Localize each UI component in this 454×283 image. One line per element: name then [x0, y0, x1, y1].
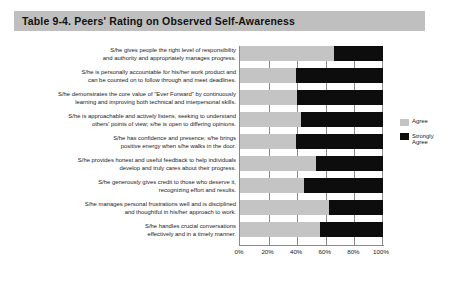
- category-label: S/he has confidence and presence; s/he b…: [18, 135, 236, 150]
- bar-row: [240, 156, 383, 171]
- bar-segment-strongly-agree: [304, 178, 383, 193]
- x-tick-label: 100%: [373, 248, 389, 255]
- category-label: S/he gives people the right level of res…: [18, 47, 236, 62]
- bar-segment-agree: [240, 178, 304, 193]
- bar-segment-agree: [240, 222, 320, 237]
- category-label: S/he provides honest and useful feedback…: [18, 157, 236, 172]
- legend-item-agree: Agree: [400, 118, 452, 126]
- bar-segment-strongly-agree: [320, 222, 383, 237]
- bar-segment-strongly-agree: [296, 68, 383, 83]
- bar-segment-agree: [240, 112, 301, 127]
- plot-area: [239, 46, 383, 245]
- category-label: S/he generously gives credit to those wh…: [18, 179, 236, 194]
- bar-segment-strongly-agree: [316, 156, 383, 171]
- chart-legend: Agree Strongly Agree: [400, 118, 452, 153]
- bar-segment-strongly-agree: [329, 200, 383, 215]
- bar-row: [240, 178, 383, 193]
- bar-row: [240, 222, 383, 237]
- category-label: S/he is approachable and actively listen…: [18, 113, 236, 128]
- bar-segment-strongly-agree: [301, 112, 383, 127]
- legend-swatch-agree-icon: [400, 119, 409, 126]
- x-tick-label: 80%: [347, 248, 359, 255]
- legend-swatch-strongly-agree-icon: [400, 133, 409, 140]
- x-tick-label: 40%: [290, 248, 302, 255]
- page-title: Table 9-4. Peers' Rating on Observed Sel…: [22, 15, 295, 27]
- x-axis-tick-labels: 0% 20% 40% 60% 80% 100%: [239, 248, 382, 260]
- bar-segment-agree: [240, 68, 296, 83]
- category-label: S/he handles crucial conversations effec…: [18, 223, 236, 238]
- category-labels: S/he gives people the right level of res…: [18, 46, 236, 245]
- bar-row: [240, 46, 383, 61]
- bar-segment-agree: [240, 200, 329, 215]
- legend-label: Strongly Agree: [412, 133, 434, 146]
- bar-segment-strongly-agree: [297, 90, 383, 105]
- bar-row: [240, 68, 383, 83]
- bar-segment-agree: [240, 46, 334, 61]
- x-axis-line: [239, 245, 384, 246]
- bar-row: [240, 90, 383, 105]
- category-label: S/he manages personal frustrations well …: [18, 201, 236, 216]
- bar-row: [240, 200, 383, 215]
- category-label: S/he demonstrates the core value of "Eve…: [18, 91, 236, 106]
- table-title-banner: Table 9-4. Peers' Rating on Observed Sel…: [14, 11, 425, 31]
- legend-label: Agree: [412, 118, 428, 125]
- bar-segment-strongly-agree: [334, 46, 383, 61]
- bar-segment-agree: [240, 134, 296, 149]
- x-tick-label: 60%: [319, 248, 331, 255]
- bar-row: [240, 112, 383, 127]
- bar-segment-agree: [240, 156, 316, 171]
- chart-page: Table 9-4. Peers' Rating on Observed Sel…: [0, 0, 454, 283]
- x-tick-label: 20%: [261, 248, 273, 255]
- category-label: S/he is personally accountable for his/h…: [18, 69, 236, 84]
- bar-segment-strongly-agree: [296, 134, 383, 149]
- x-tick-label: 0%: [235, 248, 244, 255]
- bar-segment-agree: [240, 90, 297, 105]
- legend-item-strongly-agree: Strongly Agree: [400, 133, 452, 146]
- chart-container: S/he gives people the right level of res…: [0, 40, 454, 270]
- bar-row: [240, 134, 383, 149]
